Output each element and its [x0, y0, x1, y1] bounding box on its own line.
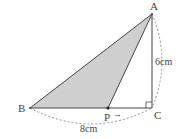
label-c: C [154, 109, 161, 121]
point-a-dot [151, 13, 153, 15]
shaded-triangle-abp [30, 14, 152, 108]
label-a: A [150, 0, 158, 12]
dimension-arc-bc [30, 108, 152, 124]
motion-arrow-icon: → [113, 109, 122, 119]
right-angle-marker [146, 102, 152, 108]
point-p-dot [106, 106, 109, 109]
label-b: B [18, 102, 25, 114]
triangle-diagram: A B C P → 6cm 8cm [0, 0, 186, 139]
label-p: P [104, 111, 110, 123]
measure-bc: 8cm [80, 123, 97, 134]
measure-ac: 6cm [155, 56, 172, 67]
point-b-dot [29, 107, 31, 109]
